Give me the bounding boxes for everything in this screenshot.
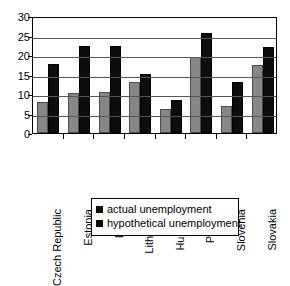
bar-hypothetical xyxy=(263,47,274,133)
bar-hypothetical xyxy=(48,64,59,133)
bar-actual xyxy=(190,57,201,133)
bar-actual xyxy=(160,109,171,133)
bar-actual xyxy=(221,106,232,133)
bar-actual xyxy=(37,102,48,133)
y-tick-label: 25 xyxy=(4,31,30,42)
bar-hypothetical xyxy=(201,33,212,133)
y-tick-label: 5 xyxy=(4,109,30,120)
gridline xyxy=(33,77,276,78)
y-tick-label: 0 xyxy=(4,129,30,140)
y-tick-label: 30 xyxy=(4,12,30,23)
y-tick-label: 10 xyxy=(4,90,30,101)
gridline xyxy=(33,96,276,97)
y-tick-label: 15 xyxy=(4,70,30,81)
bar-hypothetical xyxy=(110,46,121,133)
bar-actual xyxy=(129,82,140,133)
legend-item: hypothetical unemployment xyxy=(96,217,234,230)
category-label: Slovakia xyxy=(267,209,278,251)
legend-label: hypothetical unemployment xyxy=(107,218,241,229)
bar-actual xyxy=(252,65,263,133)
bar-hypothetical xyxy=(232,82,243,133)
legend-swatch-icon xyxy=(96,206,103,213)
legend-label: actual unemployment xyxy=(107,204,212,215)
bar-hypothetical xyxy=(79,46,90,133)
gridline xyxy=(33,116,276,117)
chart-legend: actual unemploymenthypothetical unemploy… xyxy=(91,198,239,236)
y-axis: 051015202530 xyxy=(0,0,30,250)
category-label: Czech Republic xyxy=(52,209,63,286)
gridline xyxy=(33,38,276,39)
bar-actual xyxy=(99,92,110,133)
y-tick-label: 20 xyxy=(4,51,30,62)
gridline xyxy=(33,57,276,58)
legend-item: actual unemployment xyxy=(96,203,234,216)
plot-area xyxy=(32,17,277,134)
legend-swatch-icon xyxy=(96,220,103,227)
bar-hypothetical xyxy=(171,100,182,133)
bar-actual xyxy=(68,93,79,133)
bar-hypothetical xyxy=(140,74,151,133)
